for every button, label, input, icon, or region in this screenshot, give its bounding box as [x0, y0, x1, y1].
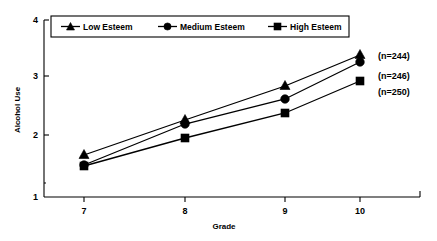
y-tick-label-2: 2	[33, 130, 38, 140]
square-marker-icon	[356, 77, 364, 85]
annotation-low-esteem-n: (n=244)	[378, 51, 410, 61]
axis-group	[44, 20, 420, 202]
legend-label-low-esteem: Low Esteem	[83, 22, 133, 32]
square-marker-icon	[181, 134, 189, 142]
square-marker-icon	[274, 23, 281, 30]
y-axis-title: Alcohol Use	[13, 86, 22, 133]
square-marker-icon	[281, 109, 289, 117]
x-tick-label-8: 8	[182, 206, 187, 216]
series-low-esteem	[79, 50, 365, 159]
circle-marker-icon	[164, 23, 171, 30]
x-axis-title: Grade	[212, 222, 236, 231]
series-line-high-esteem	[84, 81, 360, 166]
annotation-medium-esteem-n: (n=246)	[378, 71, 410, 81]
series-high-esteem	[80, 77, 364, 170]
triangle-marker-icon	[355, 50, 365, 59]
x-tick-label-9: 9	[282, 206, 287, 216]
circle-marker-icon	[356, 58, 365, 67]
x-tick-label-7: 7	[81, 206, 86, 216]
annotation-high-esteem-n: (n=250)	[378, 87, 410, 97]
legend-label-high-esteem: High Esteem	[290, 22, 342, 32]
circle-marker-icon	[281, 95, 290, 104]
y-tick-label-1: 1	[33, 192, 38, 202]
legend-label-medium-esteem: Medium Esteem	[180, 22, 245, 32]
y-tick-label-4: 4	[33, 15, 38, 25]
alcohol-use-by-grade-chart: 4 3 2 1 7 8 9 10 Grade Alcohol Use	[0, 0, 437, 241]
series-medium-esteem	[80, 58, 365, 170]
series-line-medium-esteem	[84, 62, 360, 165]
series-line-low-esteem	[84, 55, 360, 155]
chart-legend: Low Esteem Medium Esteem High Esteem	[51, 16, 349, 37]
x-tick-label-10: 10	[355, 206, 365, 216]
y-tick-label-3: 3	[33, 71, 38, 81]
circle-marker-icon	[80, 161, 89, 170]
chart-canvas: 4 3 2 1 7 8 9 10 Grade Alcohol Use	[0, 0, 437, 241]
